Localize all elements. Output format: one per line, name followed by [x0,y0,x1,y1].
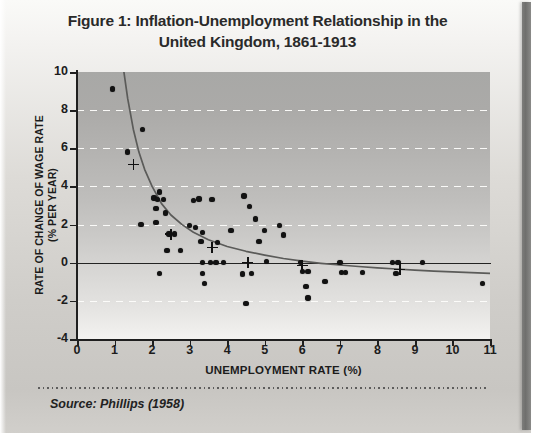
phillips-curve-chart: -4-20246810 01234567891011 UNEMPLOYMENT … [0,0,543,443]
x-tick-5 [265,339,267,346]
data-point [322,279,327,284]
data-point [138,222,143,227]
x-tick-8 [377,339,379,346]
x-axis-line [76,339,491,341]
x-tick-6 [302,339,304,346]
y-tick--4 [70,339,77,341]
fitted-phillips-curve [77,72,491,340]
data-point [196,196,201,201]
x-tick-4 [227,339,229,346]
x-axis-title: UNEMPLOYMENT RATE (%) [77,364,490,376]
data-point [305,295,310,300]
group-mean-marker [242,257,253,268]
data-point [343,270,348,275]
y-axis-title-line1: RATE OF CHANGE OF WAGE RATE [33,115,45,295]
data-point [228,228,233,233]
data-point [240,271,245,276]
y-tick-8 [70,110,77,112]
book-spine [522,2,531,430]
y-tick--2 [70,301,77,303]
data-point [253,216,258,221]
x-tick-2 [152,339,154,346]
y-tick-10 [70,72,77,74]
data-point [281,232,286,237]
data-point [163,210,168,215]
x-tick-0 [77,339,79,346]
data-point [241,193,246,198]
group-mean-marker [297,260,308,271]
y-axis-title: RATE OF CHANGE OF WAGE RATE (% PER YEAR) [33,90,59,320]
y-tick-0 [70,263,77,265]
footer-divider [38,387,488,389]
data-point [153,220,158,225]
x-tick-7 [340,339,342,346]
x-tick-11 [490,339,492,346]
y-tick-2 [70,225,77,227]
data-point [164,248,169,253]
data-point [360,270,365,275]
y-tick-4 [70,186,77,188]
page-right-margin [531,0,543,443]
data-point [198,239,203,244]
x-tick-10 [452,339,454,346]
data-point [153,206,158,211]
group-mean-marker [207,242,218,253]
data-point [243,301,248,306]
y-tick-6 [70,148,77,150]
source-caption: Source: Phillips (1958) [50,397,184,411]
group-mean-marker [128,159,139,170]
y-tick-label-10: 10 [42,64,68,78]
data-point [193,225,198,230]
group-mean-marker [165,229,176,240]
data-point [337,260,342,265]
data-point [303,284,308,289]
page-bottom-margin [0,433,543,443]
x-tick-1 [115,339,117,346]
figure-page: Figure 1: Inflation-Unemployment Relatio… [0,0,543,443]
y-axis-title-line2: (% PER YEAR) [46,90,59,320]
group-mean-marker [394,264,405,275]
data-point [213,260,218,265]
data-point [178,248,183,253]
x-tick-9 [415,339,417,346]
x-tick-3 [190,339,192,346]
